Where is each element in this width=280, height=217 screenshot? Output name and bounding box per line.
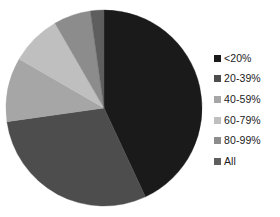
legend-swatch-icon [214, 75, 221, 82]
chart-legend: <20%20-39%40-59%60-79%80-99%All [214, 48, 280, 172]
legend-swatch-icon [214, 117, 221, 124]
legend-item[interactable]: <20% [214, 48, 280, 69]
legend-swatch-icon [214, 137, 221, 144]
legend-item-label: All [224, 156, 236, 167]
legend-item[interactable]: 40-59% [214, 89, 280, 110]
pie-chart-svg [0, 0, 212, 217]
legend-item[interactable]: All [214, 151, 280, 172]
pie-slice-group [6, 10, 202, 206]
legend-item-label: 40-59% [224, 94, 261, 105]
legend-item[interactable]: 80-99% [214, 130, 280, 151]
legend-swatch-icon [214, 55, 221, 62]
legend-item-label: 60-79% [224, 115, 261, 126]
legend-swatch-icon [214, 158, 221, 165]
pie-chart-figure: <20%20-39%40-59%60-79%80-99%All [0, 0, 280, 217]
legend-item-label: 20-39% [224, 73, 261, 84]
legend-item-label: <20% [224, 53, 252, 64]
legend-item-label: 80-99% [224, 135, 261, 146]
legend-swatch-icon [214, 96, 221, 103]
legend-item[interactable]: 20-39% [214, 69, 280, 90]
legend-item[interactable]: 60-79% [214, 110, 280, 131]
